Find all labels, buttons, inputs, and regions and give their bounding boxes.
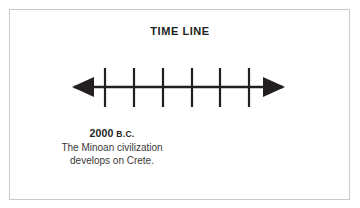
- caption-date-year: 2000: [89, 127, 113, 139]
- left-arrowhead-icon: [72, 77, 94, 97]
- caption-line: The Minoan civilization: [32, 141, 192, 154]
- timeline-caption: 2000 B.C. The Minoan civilization develo…: [32, 126, 192, 167]
- page-title: TIME LINE: [0, 25, 360, 37]
- caption-date-era: B.C.: [114, 129, 135, 139]
- timeline-figure: TIME LINE 2000 B.C. The Minoan civilizat…: [0, 0, 360, 208]
- caption-line: develops on Crete.: [32, 154, 192, 167]
- timeline-diagram: [60, 60, 300, 115]
- caption-date: 2000 B.C.: [32, 126, 192, 141]
- right-arrowhead-icon: [263, 77, 285, 97]
